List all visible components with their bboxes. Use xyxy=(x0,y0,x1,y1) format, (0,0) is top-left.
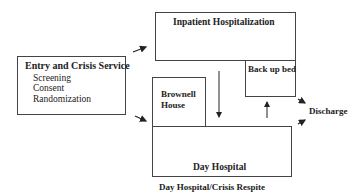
arrow-entry-to-day-hospital xyxy=(135,116,146,121)
arrow-day-hospital-to-discharge xyxy=(298,120,305,124)
arrow-entry-to-inpatient xyxy=(133,47,146,52)
arrow-backup-to-discharge xyxy=(298,99,305,103)
flow-arrows xyxy=(0,0,359,196)
